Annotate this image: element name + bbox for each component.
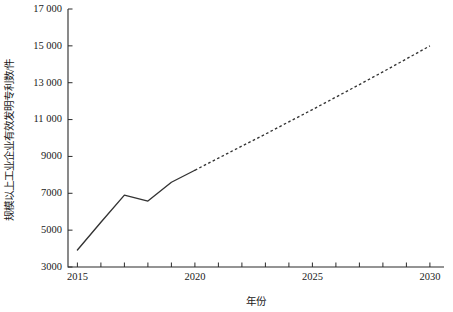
y-tick-label: 3000 (41, 261, 62, 272)
y-tick-label: 5000 (41, 224, 62, 235)
x-tick-label: 2015 (67, 271, 88, 282)
y-tick-label: 7000 (41, 187, 62, 198)
x-axis-title: 年份 (246, 295, 267, 307)
y-tick-label: 17 000 (33, 3, 62, 14)
x-tick-label: 2020 (184, 271, 205, 282)
y-tick-label: 9000 (41, 150, 62, 161)
line-chart-canvas: 300050007000900011 00013 00015 00017 000… (0, 0, 453, 312)
x-tick-label: 2025 (302, 271, 323, 282)
y-tick-label: 15 000 (33, 40, 62, 51)
y-tick-label: 11 000 (34, 113, 63, 124)
y-axis-title: 规模以上工业企业有效发明专利数/件 (3, 59, 15, 222)
x-tick-label: 2030 (419, 271, 440, 282)
y-tick-label: 13 000 (33, 77, 62, 88)
chart-figure: 300050007000900011 00013 00015 00017 000… (0, 0, 453, 312)
